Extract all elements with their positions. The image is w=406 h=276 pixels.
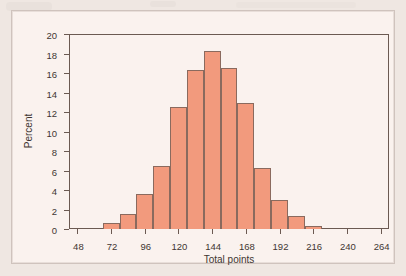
y-tick-label: 14 — [46, 88, 57, 99]
y-tick-mark: 2 — [64, 210, 69, 211]
y-tick-mark: 18 — [64, 54, 69, 55]
y-tick-mark: 10 — [64, 132, 69, 133]
y-tick-label: 20 — [46, 30, 57, 41]
histogram-bar — [170, 107, 187, 229]
x-tick-mark: 168 — [246, 229, 247, 234]
y-axis-line — [69, 34, 70, 229]
y-axis-title: Percent — [23, 114, 34, 148]
y-tick-mark: 6 — [64, 171, 69, 172]
x-tick-label: 192 — [273, 241, 289, 252]
y-tick-label: 18 — [46, 49, 57, 60]
x-tick-label: 264 — [374, 241, 390, 252]
histogram-bar — [204, 51, 221, 229]
x-tick-label: 168 — [239, 241, 255, 252]
x-tick-mark: 264 — [381, 229, 382, 234]
y-tick-mark: 20 — [64, 34, 69, 35]
y-tick-label: 10 — [46, 127, 57, 138]
y-tick-label: 6 — [52, 166, 57, 177]
x-tick-mark: 216 — [313, 229, 314, 234]
histogram-bar — [271, 200, 288, 229]
scan-artifact — [236, 2, 356, 8]
plot-frame-top-border — [69, 34, 389, 35]
plot-frame-right-border — [388, 34, 389, 229]
x-tick-label: 48 — [73, 241, 84, 252]
x-tick-mark: 144 — [212, 229, 213, 234]
x-tick-mark: 192 — [280, 229, 281, 234]
scan-artifact — [150, 1, 176, 7]
x-tick-mark: 120 — [178, 229, 179, 234]
y-tick-mark: 12 — [64, 112, 69, 113]
x-tick-mark: 96 — [145, 229, 146, 234]
histogram-bar — [254, 168, 271, 229]
x-tick-mark: 72 — [111, 229, 112, 234]
page-canvas: Percent Total points 02468101214161820 4… — [0, 0, 406, 276]
x-tick-label: 96 — [140, 241, 151, 252]
y-tick-mark: 14 — [64, 93, 69, 94]
x-axis-title: Total points — [204, 254, 255, 265]
histogram-bar — [221, 68, 238, 229]
x-tick-label: 120 — [172, 241, 188, 252]
x-tick-label: 144 — [205, 241, 221, 252]
histogram-bar — [187, 70, 204, 229]
y-tick-label: 8 — [52, 147, 57, 158]
y-tick-mark: 4 — [64, 190, 69, 191]
x-tick-label: 216 — [306, 241, 322, 252]
histogram-bar — [136, 194, 153, 229]
histogram-bar — [237, 103, 254, 229]
histogram-bar — [153, 166, 170, 229]
histogram-bar — [103, 223, 120, 229]
histogram-bar — [120, 214, 137, 229]
figure-frame: Percent Total points 02468101214161820 4… — [11, 10, 395, 264]
y-tick-label: 12 — [46, 108, 57, 119]
histogram-bar — [305, 226, 322, 229]
plot-area: 02468101214161820 4872961201441681922162… — [69, 34, 389, 229]
y-tick-label: 2 — [52, 205, 57, 216]
x-tick-mark: 240 — [347, 229, 348, 234]
y-tick-label: 0 — [52, 225, 57, 236]
y-tick-label: 4 — [52, 186, 57, 197]
x-tick-label: 72 — [107, 241, 118, 252]
y-tick-mark: 8 — [64, 151, 69, 152]
y-tick-mark: 16 — [64, 73, 69, 74]
x-tick-mark: 48 — [77, 229, 78, 234]
x-tick-label: 240 — [340, 241, 356, 252]
y-tick-mark: 0 — [64, 229, 69, 230]
histogram-bar — [288, 216, 305, 229]
y-tick-label: 16 — [46, 69, 57, 80]
